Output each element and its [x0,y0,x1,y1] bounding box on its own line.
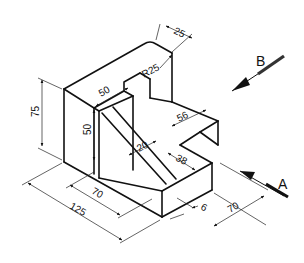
view-arrow-a: A [240,171,288,197]
dim-radius: R25 [140,61,162,80]
dimension-texts: 75 50 50 25 R25 56 20 38 70 125 6 70 [30,25,241,218]
dim-web-height: 50 [82,123,93,135]
dim-base-thickness: 6 [199,201,209,214]
dim-top-thickness: 25 [172,25,187,40]
dim-top-step-width: 50 [97,84,112,99]
view-label-b: B [256,53,265,69]
dim-base-overall: 125 [68,200,88,218]
isometric-part-drawing: 75 50 50 25 R25 56 20 38 70 125 6 70 B A [0,0,304,263]
view-label-a: A [278,176,288,192]
dim-step-depth: 56 [175,109,190,124]
dim-overall-height: 75 [30,105,41,117]
view-arrow-b: B [232,53,284,91]
